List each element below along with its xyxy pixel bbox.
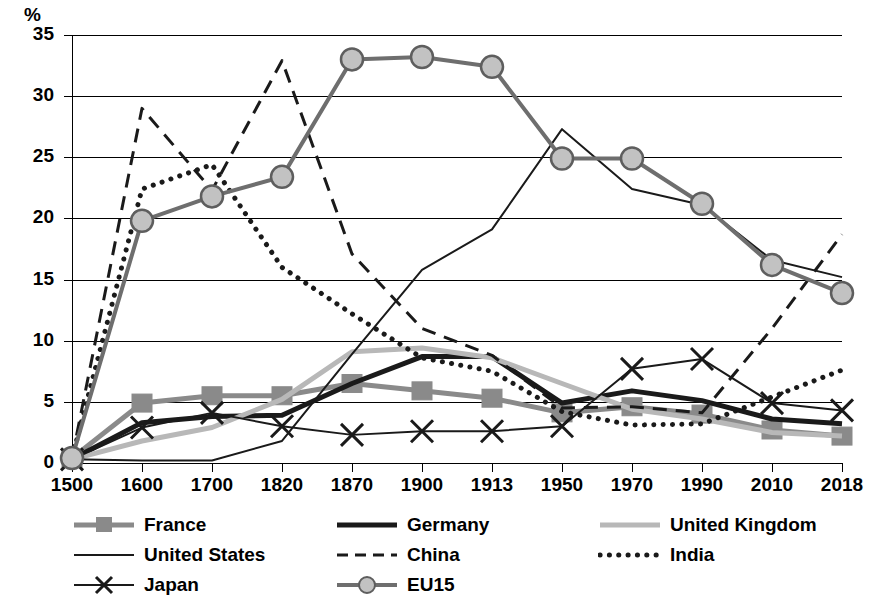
series-line: [72, 165, 842, 458]
legend-item-germany[interactable]: Germany: [335, 510, 598, 540]
series-united-kingdom: [72, 348, 842, 459]
legend-label: Germany: [407, 514, 489, 536]
legend-label: Japan: [144, 574, 199, 596]
data-point-marker: [61, 447, 83, 469]
series-eu15: [61, 46, 853, 469]
data-point-marker: [691, 348, 713, 370]
series-united-states: [72, 129, 842, 460]
legend-item-japan[interactable]: Japan: [72, 570, 335, 600]
data-point-marker: [411, 46, 433, 68]
series-line: [72, 357, 842, 460]
legend-item-france[interactable]: France: [72, 510, 335, 540]
plot-area: % 05101520253035 15001600170018201870190…: [0, 0, 870, 500]
data-point-marker: [551, 148, 573, 170]
data-point-marker: [761, 254, 783, 276]
data-point-marker: [202, 387, 222, 405]
series-line: [72, 129, 842, 460]
legend-item-eu15[interactable]: EU15: [335, 570, 598, 600]
data-point-marker: [201, 185, 223, 207]
legend-swatch-icon: [335, 544, 399, 566]
data-point-marker: [132, 394, 152, 412]
series-germany: [72, 357, 842, 460]
legend-item-china[interactable]: China: [335, 540, 598, 570]
legend-swatch-icon: [72, 574, 136, 596]
legend-item-india[interactable]: India: [598, 540, 861, 570]
legend-swatch-icon: [72, 514, 136, 536]
data-point-marker: [691, 193, 713, 215]
data-point-marker: [271, 166, 293, 188]
legend-item-united-kingdom[interactable]: United Kingdom: [598, 510, 861, 540]
data-point-marker: [481, 56, 503, 78]
data-point-marker: [341, 48, 363, 70]
legend-swatch-icon: [335, 574, 399, 596]
legend-label: EU15: [407, 574, 455, 596]
legend-item-united-states[interactable]: United States: [72, 540, 335, 570]
data-point-marker: [131, 210, 153, 232]
legend-label: United Kingdom: [670, 514, 817, 536]
series-india: [72, 165, 842, 458]
data-point-marker: [831, 282, 853, 304]
legend-swatch-icon: [72, 544, 136, 566]
legend-row: FranceGermanyUnited Kingdom: [72, 510, 862, 540]
data-point-marker: [621, 358, 643, 380]
legend-label: France: [144, 514, 206, 536]
data-point-marker: [621, 148, 643, 170]
legend-label: China: [407, 544, 460, 566]
legend-swatch-icon: [335, 514, 399, 536]
chart-figure: % 05101520253035 15001600170018201870190…: [0, 0, 870, 606]
legend: FranceGermanyUnited KingdomUnited States…: [72, 510, 862, 602]
data-point-marker: [482, 389, 502, 407]
legend-row: United StatesChinaIndia: [72, 540, 862, 570]
data-point-marker: [412, 382, 432, 400]
legend-swatch-icon: [598, 544, 662, 566]
legend-swatch-icon: [598, 514, 662, 536]
legend-label: United States: [144, 544, 265, 566]
legend-row: JapanEU15: [72, 570, 862, 600]
series-layer: [0, 0, 870, 500]
series-line: [72, 348, 842, 459]
legend-label: India: [670, 544, 714, 566]
